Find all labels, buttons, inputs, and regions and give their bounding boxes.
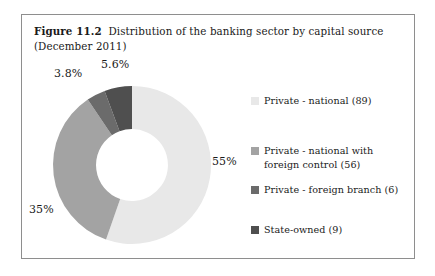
slice-label-private-national: 55% (212, 155, 237, 168)
legend-label-line2: foreign control (56) (264, 159, 360, 170)
slice-label-private-foreign-branch: 3.8% (54, 67, 82, 80)
legend-label-line1: Private - national (89) (264, 95, 372, 106)
donut-chart-svg (37, 70, 227, 260)
legend-swatch-icon (251, 186, 259, 194)
legend-label: Private - national (89) (264, 94, 372, 108)
legend-item-private-national: Private - national (89) (251, 94, 411, 108)
legend-item-state-owned: State-owned (9) (251, 223, 411, 237)
legend-swatch-icon (251, 97, 259, 105)
legend-label-line1: Private - foreign branch (6) (264, 184, 398, 195)
legend-label-line1: State-owned (9) (264, 224, 342, 235)
legend-label-line1: Private - national with (264, 145, 373, 156)
legend-swatch-icon (251, 147, 259, 155)
donut-chart: 55% 35% 3.8% 5.6% Private - national (89… (22, 15, 416, 260)
legend-item-private-foreign-branch: Private - foreign branch (6) (251, 183, 411, 197)
slice-label-private-national-foreign-control: 35% (29, 203, 54, 216)
legend-swatch-icon (251, 226, 259, 234)
figure-box: Figure 11.2 Distribution of the banking … (21, 14, 415, 259)
legend-item-private-national-foreign-control: Private - national withforeign control (… (251, 144, 411, 171)
legend-label: Private - foreign branch (6) (264, 183, 398, 197)
slice-label-state-owned: 5.6% (101, 58, 129, 71)
legend-label: State-owned (9) (264, 223, 342, 237)
legend-label: Private - national withforeign control (… (264, 144, 373, 171)
